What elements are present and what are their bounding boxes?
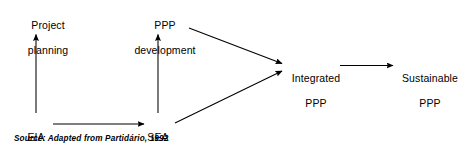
edge-ppp-development-to-integrated-ppp — [189, 28, 282, 64]
node-project-planning-line1: Project — [28, 19, 69, 32]
node-ppp-development-line2: development — [134, 44, 195, 57]
node-ppp-development: PPP development — [134, 6, 195, 69]
node-sustainable-ppp: Sustainable PPP — [402, 59, 458, 122]
diagram-canvas: Project planning PPP development Integra… — [0, 0, 470, 154]
node-integrated-ppp-line2: PPP — [292, 97, 340, 110]
node-integrated-ppp-line1: Integrated — [292, 72, 340, 85]
node-ppp-development-line1: PPP — [134, 19, 195, 32]
node-sustainable-ppp-line1: Sustainable — [402, 72, 458, 85]
node-project-planning-line2: planning — [28, 44, 69, 57]
edge-layer — [0, 0, 470, 154]
edge-sea-to-integrated-ppp — [175, 71, 282, 123]
figure-source-caption: Source: Adapted from Partidário, 1992 — [14, 134, 168, 143]
node-sustainable-ppp-line2: PPP — [402, 97, 458, 110]
node-project-planning: Project planning — [28, 6, 69, 69]
node-integrated-ppp: Integrated PPP — [292, 59, 340, 122]
